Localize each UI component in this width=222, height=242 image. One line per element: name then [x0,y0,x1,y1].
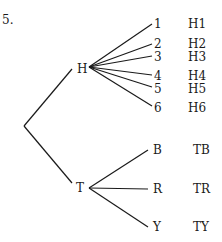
edge-root-h [24,69,72,126]
outcome-tr: TR [193,183,210,195]
edge-t-y [89,188,148,227]
t-child-b-label: B [153,144,162,156]
h-child-2-label: 2 [154,38,162,50]
outcome-h1: H1 [188,18,206,30]
h-child-1-label: 1 [154,18,162,30]
t-child-y-label: Y [153,221,161,233]
edge-t-b [89,150,148,188]
outcome-h3: H3 [188,51,206,63]
edge-h-1 [89,24,152,67]
h-child-6-label: 6 [154,102,162,114]
outcome-h6: H6 [188,102,206,114]
edge-t-r [89,188,148,189]
edge-root-t [24,126,72,183]
outcome-h2: H2 [188,38,206,50]
h-child-3-label: 3 [154,51,162,63]
h-child-4-label: 4 [154,70,162,82]
t-child-r-label: R [153,183,162,195]
node-h-label: H [77,63,87,75]
tree-diagram: 5. H T 1 2 3 4 5 6 H1 H2 H3 H4 H5 H6 B R… [0,0,222,242]
edge-h-5 [89,67,152,87]
edge-h-3 [89,56,152,67]
edge-h-4 [89,67,152,75]
outcome-h4: H4 [188,70,206,82]
edge-h-6 [89,67,152,106]
outcome-h5: H5 [188,83,206,95]
h-child-5-label: 5 [154,83,162,95]
outcome-ty: TY [193,221,209,233]
edge-h-2 [89,44,152,67]
branch-lines [89,24,152,227]
node-t-label: T [76,182,84,194]
outcome-tb: TB [193,144,210,156]
